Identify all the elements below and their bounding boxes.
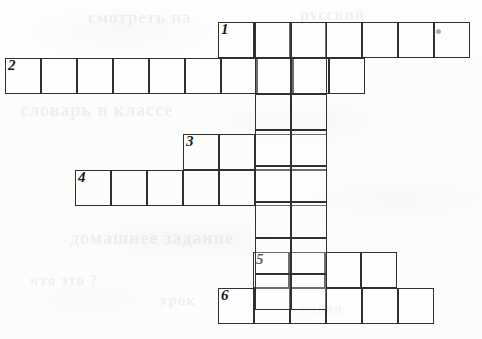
crossword-puzzle: смотреть нарусскийсловарь в класседомашн… [0,0,482,339]
ghost-text-5: урок [160,292,196,309]
cell-column-a-4[interactable] [255,130,291,166]
ghost-text-2: словарь в классе [20,100,173,121]
cell-entry4-1[interactable]: 4 [75,170,111,206]
cell-entry5-3[interactable] [325,252,361,288]
cell-entry2-1[interactable]: 2 [5,58,41,94]
cell-column-a-1[interactable] [255,22,291,58]
ink-speck [436,29,441,34]
cell-entry2-10[interactable] [329,58,365,94]
cell-column-a-5[interactable] [255,166,291,202]
cell-column-a-8[interactable] [255,274,291,310]
cell-entry6-1[interactable]: 6 [218,288,254,324]
cell-entry2-4[interactable] [113,58,149,94]
cell-entry1-6[interactable] [398,22,434,58]
cell-entry1-4[interactable] [326,22,362,58]
cell-entry2-6[interactable] [185,58,221,94]
ghost-text-4: что это ? [30,272,98,289]
cell-entry2-3[interactable] [77,58,113,94]
cell-column-b-2[interactable] [291,58,327,94]
entry-number-3: 3 [186,134,194,150]
cell-entry2-2[interactable] [41,58,77,94]
cell-column-a-7[interactable] [255,238,291,274]
cell-column-a-2[interactable] [255,58,291,94]
cell-entry4-5[interactable] [219,170,255,206]
cell-entry4-2[interactable] [111,170,147,206]
cell-column-a-6[interactable] [255,202,291,238]
cell-entry3-1[interactable]: 3 [183,134,219,170]
cell-column-b-5[interactable] [291,166,327,202]
cell-entry1-1[interactable]: 1 [218,22,254,58]
cell-entry5-4[interactable] [361,252,397,288]
cell-column-b-3[interactable] [291,94,327,130]
cell-entry4-3[interactable] [147,170,183,206]
cell-entry6-5[interactable] [362,288,398,324]
ghost-text-3: домашнее задание [70,228,234,249]
cell-entry2-5[interactable] [149,58,185,94]
ghost-text-0: смотреть на [88,8,192,28]
cell-entry3-2[interactable] [219,134,255,170]
cell-entry6-6[interactable] [398,288,434,324]
cell-column-b-6[interactable] [291,202,327,238]
cell-column-b-1[interactable] [291,22,327,58]
cell-entry1-5[interactable] [362,22,398,58]
entry-number-6: 6 [221,288,229,304]
entry-number-4: 4 [78,170,86,186]
cell-entry2-7[interactable] [221,58,257,94]
cell-entry4-4[interactable] [183,170,219,206]
entry-number-2: 2 [8,58,16,74]
cell-entry6-4[interactable] [326,288,362,324]
cell-column-b-8[interactable] [291,274,327,310]
cell-column-a-3[interactable] [255,94,291,130]
cell-column-b-4[interactable] [291,130,327,166]
entry-number-1: 1 [221,22,229,38]
cell-column-b-7[interactable] [291,238,327,274]
cell-entry1-7[interactable] [434,22,470,58]
